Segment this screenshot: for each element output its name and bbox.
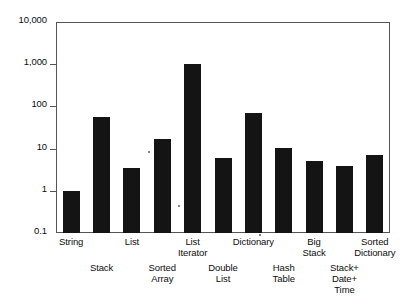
bar: [336, 166, 353, 233]
scan-speck: [259, 234, 261, 236]
x-axis-labels: StringStackListSorted ArrayList Iterator…: [0, 236, 411, 306]
bar: [184, 64, 201, 233]
bar: [306, 161, 323, 233]
scan-speck: [148, 151, 150, 153]
bar: [275, 148, 292, 233]
bar: [63, 191, 80, 233]
bar: [123, 168, 140, 233]
x-axis-label: Stack+ Date+ Time: [308, 262, 380, 295]
bar: [93, 117, 110, 233]
bar: [366, 155, 383, 233]
bar: [154, 139, 171, 233]
bar: [245, 113, 262, 233]
bar: [215, 158, 232, 233]
bar-chart: 10,0001,0001001010.1 StringStackListSort…: [0, 0, 411, 306]
x-axis-label: Sorted Dictionary: [339, 236, 411, 258]
scan-speck: [178, 205, 180, 207]
